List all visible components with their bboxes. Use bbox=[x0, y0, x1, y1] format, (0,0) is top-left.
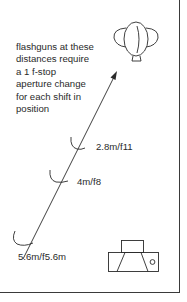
arc-marker-5-6m bbox=[13, 231, 33, 245]
caption-line: flashguns at these bbox=[16, 41, 108, 53]
position-label-4m: 4m/f8 bbox=[77, 176, 101, 187]
camera-icon bbox=[109, 241, 159, 272]
arrowhead-icon bbox=[111, 71, 118, 80]
caption-line: position bbox=[16, 103, 108, 115]
caption-line: for each shift in bbox=[16, 91, 108, 103]
caption-line: aperture change bbox=[16, 78, 108, 90]
explanation-caption: flashguns at these distances require a 1… bbox=[16, 41, 108, 115]
position-label-2-8m: 2.8m/f11 bbox=[96, 141, 133, 152]
arc-marker-4m bbox=[50, 170, 68, 182]
caption-line: a 1 f-stop bbox=[16, 66, 108, 78]
flashgun-subject-icon bbox=[114, 22, 158, 61]
position-label-5-6m: 5.6m/f5.6m bbox=[18, 251, 66, 262]
caption-line: distances require bbox=[16, 53, 108, 65]
